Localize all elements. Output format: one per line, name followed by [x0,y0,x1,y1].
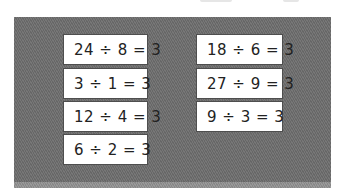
top-decoration-right [283,0,299,2]
equation-card: 24 ÷ 8 = 3 [64,35,147,64]
equation-card: 3 ÷ 1 = 3 [64,69,147,98]
equation-card: 9 ÷ 3 = 3 [197,102,282,131]
division-cards-board: 24 ÷ 8 = 3 3 ÷ 1 = 3 12 ÷ 4 = 3 6 ÷ 2 = … [0,0,345,195]
equation-card: 6 ÷ 2 = 3 [64,135,147,164]
equation-card: 12 ÷ 4 = 3 [64,102,147,131]
equation-card: 18 ÷ 6 = 3 [197,35,282,64]
board-panel-base [14,182,331,188]
equation-card: 27 ÷ 9 = 3 [197,69,282,98]
top-decoration-left [200,0,232,2]
